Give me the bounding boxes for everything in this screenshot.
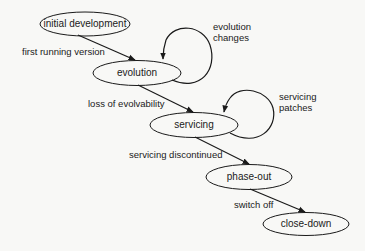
- node-servicing-label: servicing: [174, 120, 213, 130]
- node-phase-out-label: phase-out: [227, 172, 271, 182]
- edge-label-first-running-version: first running version: [22, 47, 105, 57]
- edge-label-servicing-discontinued: servicing discontinued: [129, 150, 222, 160]
- node-evolution-label: evolution: [117, 68, 157, 78]
- edge-label-servicing-patches-line1: servicing: [279, 92, 317, 102]
- staged-lifecycle-diagram: initial development evolution servicing …: [0, 0, 365, 251]
- node-close-down-label: close-down: [281, 219, 332, 229]
- edge-label-switch-off: switch off: [234, 200, 273, 210]
- node-initial-development-label: initial development: [44, 19, 127, 29]
- edge-label-evolution-changes-line2: changes: [213, 33, 249, 43]
- edge-label-evolution-changes-line1: evolution: [213, 22, 251, 32]
- edge-servicing-self-loop: [224, 90, 274, 138]
- edge-label-servicing-patches-line2: patches: [279, 103, 312, 113]
- edge-label-loss-of-evolvability: loss of evolvability: [88, 99, 165, 109]
- edge-evolution-self-loop: [163, 28, 212, 83]
